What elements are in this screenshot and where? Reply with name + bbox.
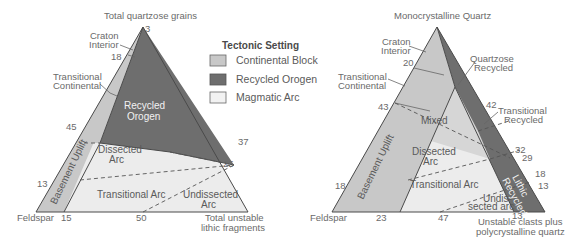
svg-text:polycrystalline quartz: polycrystalline quartz: [476, 226, 565, 237]
svg-text:Arc: Arc: [109, 154, 124, 165]
tick-47: 47: [438, 212, 449, 223]
tick-50: 50: [136, 212, 147, 223]
svg-text:lithic fragments: lithic fragments: [201, 222, 265, 233]
svg-text:Arc: Arc: [201, 199, 216, 210]
region-transitional-arc: Transitional Arc: [97, 189, 166, 200]
tick-13-right: 13: [538, 180, 549, 191]
left-corner-feldspar: Feldspar: [17, 212, 54, 223]
tick-23: 23: [376, 212, 387, 223]
tick-15: 15: [61, 212, 72, 223]
legend-swatch-recycled-orogen: [210, 74, 226, 85]
tick-18: 18: [111, 51, 122, 62]
legend-swatch-magmatic-arc: [210, 92, 226, 103]
tick-43: 43: [378, 101, 389, 112]
legend: Tectonic Setting Continental Block Recyc…: [210, 40, 318, 103]
legend-label-magmatic-arc: Magmatic Arc: [236, 91, 300, 103]
tick-18-right: 18: [535, 168, 546, 179]
svg-text:Recycled: Recycled: [474, 62, 513, 73]
left-apex-label: Total quartzose grains: [104, 10, 197, 21]
legend-swatch-continental-block: [210, 55, 226, 66]
tick-42: 42: [486, 99, 497, 110]
svg-text:Continental: Continental: [338, 80, 386, 91]
svg-text:sected arc: sected arc: [468, 201, 514, 212]
svg-text:Recycled: Recycled: [504, 114, 543, 125]
region-transitional-arc: Transitional Arc: [410, 179, 479, 190]
tick-13: 13: [37, 178, 48, 189]
tick-18-left: 18: [335, 180, 346, 191]
svg-text:Interior: Interior: [381, 45, 411, 56]
svg-text:Interior: Interior: [89, 39, 119, 50]
svg-text:Continental: Continental: [53, 80, 101, 91]
right-apex-label: Monocrystalline Quartz: [394, 10, 491, 21]
legend-label-continental-block: Continental Block: [236, 54, 318, 66]
ternary-diagrams: Total quartzose grains 3 Craton Interior…: [0, 0, 579, 249]
legend-title: Tectonic Setting: [222, 40, 299, 51]
svg-text:Orogen: Orogen: [127, 111, 160, 122]
region-mixed: Mixed: [421, 115, 448, 126]
tick-45: 45: [66, 121, 77, 132]
tick-3: 3: [145, 23, 150, 34]
tick-20: 20: [403, 57, 414, 68]
tick-37: 37: [238, 136, 249, 147]
legend-label-recycled-orogen: Recycled Orogen: [236, 73, 317, 85]
tick-29: 29: [522, 152, 533, 163]
region-recycled-orogen: Recycled: [124, 100, 165, 111]
tick-25: 25: [223, 158, 234, 169]
right-corner-feldspar: Feldspar: [310, 212, 347, 223]
svg-text:Arc: Arc: [423, 156, 438, 167]
